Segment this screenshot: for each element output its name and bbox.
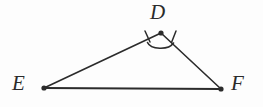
vertex-dot-E	[41, 85, 46, 90]
angle-arc-D	[148, 43, 174, 49]
tick-mark-on-DF	[172, 31, 177, 43]
edge-EF	[44, 88, 221, 89]
edge-ED	[44, 33, 161, 88]
vertex-label-E: E	[12, 73, 25, 94]
geometry-canvas	[0, 0, 263, 107]
vertex-dot-F	[218, 86, 223, 91]
vertex-label-D: D	[150, 2, 165, 23]
vertex-label-F: F	[231, 73, 244, 94]
geometry-figure: D E F	[0, 0, 263, 107]
vertex-dot-D	[158, 30, 163, 35]
edge-DF	[161, 33, 221, 89]
triangle-edges	[44, 33, 221, 89]
vertex-dots	[41, 30, 223, 91]
